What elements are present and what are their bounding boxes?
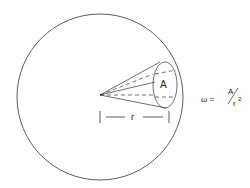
formula: ω = A r 2 bbox=[201, 87, 242, 108]
svg-text:ω =: ω = bbox=[201, 95, 214, 104]
area-label: A bbox=[160, 79, 167, 90]
radius-dimension bbox=[100, 111, 169, 123]
svg-text:A: A bbox=[228, 87, 234, 96]
svg-text:2: 2 bbox=[238, 96, 242, 102]
solid-angle-diagram: A r ω = A r 2 bbox=[0, 0, 250, 188]
svg-text:r: r bbox=[233, 99, 236, 108]
diagram-canvas: A r ω = A r 2 bbox=[0, 0, 250, 188]
radius-label: r bbox=[131, 112, 134, 122]
